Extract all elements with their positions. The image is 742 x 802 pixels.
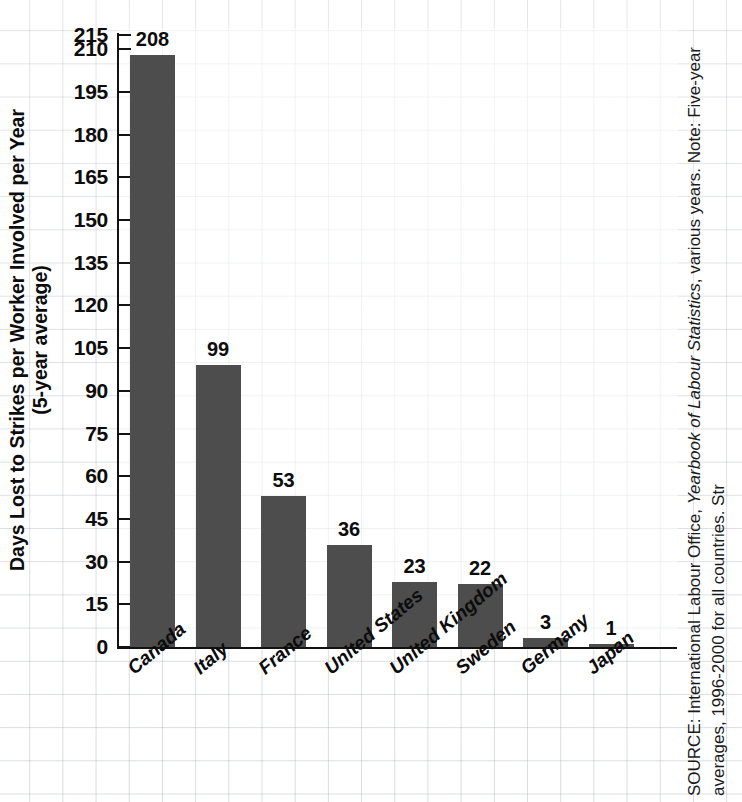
- source-prefix: SOURCE: International Labour Office,: [685, 504, 704, 796]
- y-tick-label-120: 120: [42, 294, 108, 315]
- y-tick-label-45: 45: [42, 508, 108, 529]
- y-axis-title-line1: Days Lost to Strikes per Worker Involved…: [6, 109, 28, 571]
- bar-value-united-states: 36: [315, 519, 384, 539]
- chart-page: Days Lost to Strikes per Worker Involved…: [0, 0, 742, 802]
- y-tick-label-150: 150: [42, 209, 108, 230]
- source-publication-title: Yearbook of Labour Statistics: [685, 283, 704, 504]
- y-tick-label-165: 165: [42, 166, 108, 187]
- y-tick-label-90: 90: [42, 380, 108, 401]
- source-suffix: , various years. Note: Five-year: [685, 47, 704, 283]
- source-note: SOURCE: International Labour Office, Yea…: [684, 0, 707, 796]
- y-tick-label-135: 135: [42, 252, 108, 273]
- bar-value-canada: 208: [118, 29, 187, 49]
- bar-value-united-kingdom: 23: [380, 556, 449, 576]
- y-tick-label-15: 15: [42, 593, 108, 614]
- source-note-line2: averages, 1996-2000 for all countries. S…: [708, 0, 731, 796]
- y-tick-label-0: 0: [42, 636, 108, 657]
- bar-canada[interactable]: [130, 55, 175, 647]
- bar-chart: Days Lost to Strikes per Worker Involved…: [0, 0, 742, 802]
- y-tick-label-105: 105: [42, 337, 108, 358]
- y-tick-label-195: 195: [42, 81, 108, 102]
- bar-italy[interactable]: [196, 365, 241, 647]
- y-axis-line: [117, 33, 119, 649]
- y-tick-label-215: 215: [42, 24, 108, 45]
- y-tick-label-75: 75: [42, 423, 108, 444]
- bar-value-france: 53: [249, 470, 318, 490]
- y-tick-label-60: 60: [42, 465, 108, 486]
- x-axis-line: [117, 647, 677, 649]
- y-tick-label-180: 180: [42, 124, 108, 145]
- source-note-container: SOURCE: International Labour Office, Yea…: [682, 0, 742, 802]
- y-tick-label-30: 30: [42, 551, 108, 572]
- bar-value-italy: 99: [184, 339, 253, 359]
